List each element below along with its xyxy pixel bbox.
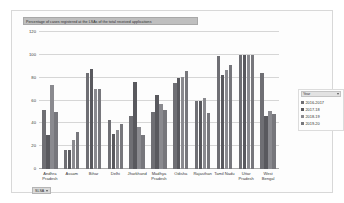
- x-axis-label: West Bengal: [257, 171, 279, 181]
- legend-item-label: 2018-19: [305, 114, 319, 119]
- bar: [129, 116, 132, 169]
- bar: [54, 112, 57, 169]
- bar-group: [217, 32, 232, 169]
- bar: [120, 124, 123, 169]
- bar: [195, 101, 198, 170]
- x-axis-label: Assam: [61, 171, 83, 181]
- legend-swatch-icon: [301, 115, 304, 118]
- bar-group: [173, 32, 188, 169]
- bar: [68, 150, 71, 169]
- bar: [151, 112, 154, 169]
- x-axis-labels: Andhra PradeshAssamBiharDelhiJharkhandMa…: [39, 171, 279, 181]
- bar: [251, 55, 254, 169]
- slsa-filter-label: SLSA: [35, 189, 44, 193]
- bar: [173, 83, 176, 169]
- bar: [64, 150, 67, 169]
- bar: [264, 116, 267, 169]
- bar-group: [86, 32, 101, 169]
- bar: [42, 110, 45, 169]
- bar-group: [64, 32, 79, 169]
- legend-items: 2016-20172017-182018-192019-20: [301, 99, 341, 127]
- bar: [185, 71, 188, 169]
- x-axis-label: Rajasthan: [192, 171, 214, 181]
- plot-area: 020406080100120: [39, 32, 279, 169]
- bar: [207, 113, 210, 169]
- legend-item[interactable]: 2017-18: [301, 106, 341, 113]
- legend-swatch-icon: [301, 108, 304, 111]
- slsa-filter-button[interactable]: SLSA: [32, 187, 51, 194]
- legend-header-label: Year: [303, 92, 310, 96]
- bar: [177, 78, 180, 169]
- chevron-down-icon[interactable]: [337, 93, 339, 95]
- bar: [98, 89, 101, 169]
- bar: [76, 132, 79, 169]
- legend-item[interactable]: 2016-2017: [301, 99, 341, 106]
- bar: [203, 98, 206, 169]
- y-axis-tick-label: 20: [31, 143, 36, 148]
- bar-group: [42, 32, 57, 169]
- x-axis-label: Delhi: [104, 171, 126, 181]
- bar: [116, 130, 119, 169]
- bar: [221, 75, 224, 169]
- bar: [94, 89, 97, 169]
- legend-item-label: 2017-18: [305, 107, 319, 112]
- bar: [46, 135, 49, 169]
- bar-groups: [39, 32, 279, 169]
- bar: [137, 127, 140, 169]
- x-axis-label: Jharkhand: [126, 171, 148, 181]
- bar: [181, 77, 184, 169]
- x-axis-label: Odisha: [170, 171, 192, 181]
- bar: [155, 95, 158, 169]
- legend: Year 2016-20172017-182018-192019-20: [298, 89, 344, 131]
- bar: [239, 55, 242, 169]
- legend-filter-header[interactable]: Year: [301, 91, 341, 97]
- y-axis-tick-label: 40: [31, 120, 36, 125]
- legend-swatch-icon: [301, 101, 304, 104]
- bar: [225, 70, 228, 169]
- bar: [243, 55, 246, 169]
- bar: [217, 56, 220, 169]
- x-axis-label: Uttar Pradesh: [235, 171, 257, 181]
- bar-group: [151, 32, 166, 169]
- bar: [199, 101, 202, 170]
- bar: [247, 55, 250, 169]
- legend-swatch-icon: [301, 122, 304, 125]
- bar: [108, 120, 111, 169]
- bar: [268, 111, 271, 169]
- y-axis-tick-label: 0: [34, 166, 36, 171]
- chart-container: Percentage of cases registered at the LS…: [11, 10, 333, 193]
- legend-item[interactable]: 2019-20: [301, 120, 341, 127]
- y-axis-tick-label: 100: [29, 51, 36, 56]
- y-axis-tick-label: 60: [31, 97, 36, 102]
- bar-group: [195, 32, 210, 169]
- bar: [50, 85, 53, 169]
- legend-item[interactable]: 2018-19: [301, 113, 341, 120]
- bar-group: [260, 32, 275, 169]
- bar: [163, 110, 166, 169]
- bar: [112, 134, 115, 169]
- bar: [141, 135, 144, 169]
- bar-group: [129, 32, 144, 169]
- chevron-down-icon[interactable]: [46, 190, 48, 192]
- bar: [272, 114, 275, 169]
- bar: [90, 69, 93, 169]
- bar: [72, 140, 75, 169]
- y-axis-tick-label: 80: [31, 74, 36, 79]
- bar: [159, 104, 162, 169]
- legend-item-label: 2016-2017: [305, 100, 324, 105]
- legend-item-label: 2019-20: [305, 121, 319, 126]
- x-axis-label: Andhra Pradesh: [39, 171, 61, 181]
- bar: [229, 65, 232, 169]
- x-axis-label: Madhya Pradesh: [148, 171, 170, 181]
- y-axis-tick-label: 120: [29, 29, 36, 34]
- x-axis-label: Bihar: [83, 171, 105, 181]
- chart-title: Percentage of cases registered at the LS…: [23, 17, 198, 25]
- bar: [260, 73, 263, 169]
- bar: [133, 82, 136, 169]
- bar-group: [108, 32, 123, 169]
- x-axis-label: Tamil Nadu: [214, 171, 236, 181]
- bar-group: [239, 32, 254, 169]
- bar: [86, 73, 89, 169]
